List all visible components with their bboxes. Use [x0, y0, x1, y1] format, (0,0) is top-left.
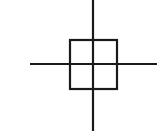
crosshair-position-icon: [0, 0, 163, 136]
crosshair-svg: [0, 0, 163, 136]
